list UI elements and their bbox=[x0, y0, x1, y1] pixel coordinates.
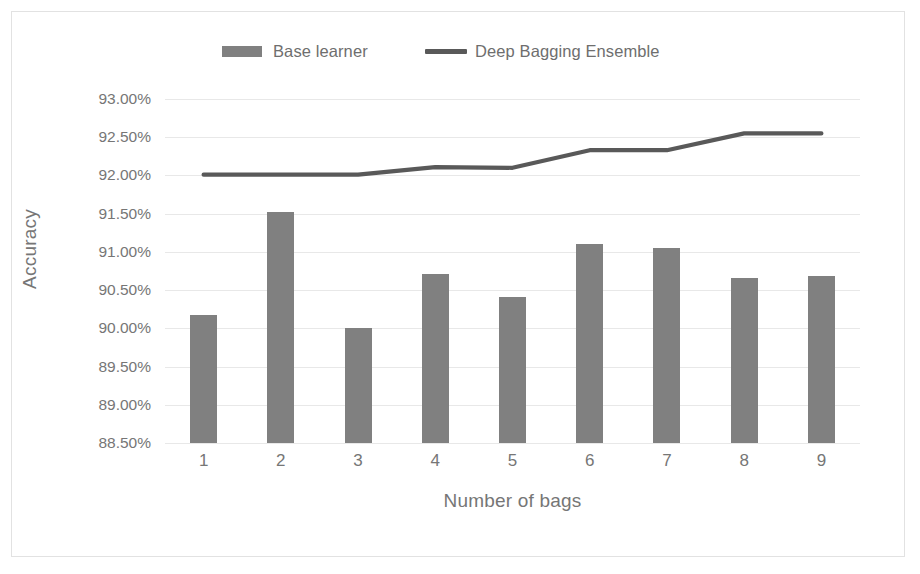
y-axis-tick-label: 92.00% bbox=[51, 166, 151, 184]
y-axis-tick-label: 88.50% bbox=[51, 434, 151, 452]
chart-figure: Base learner Deep Bagging Ensemble Accur… bbox=[0, 0, 920, 574]
y-axis-tick-label: 91.50% bbox=[51, 205, 151, 223]
legend-item-deep-bagging-ensemble: Deep Bagging Ensemble bbox=[425, 38, 660, 64]
y-axis-tick-label: 93.00% bbox=[51, 90, 151, 108]
y-axis-tick-label: 90.00% bbox=[51, 319, 151, 337]
x-axis-tick-label: 6 bbox=[560, 451, 620, 471]
legend-label-base-learner: Base learner bbox=[273, 42, 368, 61]
x-axis-tick-label: 5 bbox=[483, 451, 543, 471]
y-axis-tick-label: 89.00% bbox=[51, 396, 151, 414]
line-series-deep-bagging-ensemble bbox=[165, 99, 860, 443]
chart-legend: Base learner Deep Bagging Ensemble bbox=[0, 38, 920, 64]
plot-area: 123456789 bbox=[165, 99, 860, 443]
legend-label-deep-bagging-ensemble: Deep Bagging Ensemble bbox=[475, 42, 660, 61]
x-axis-tick-label: 7 bbox=[637, 451, 697, 471]
x-axis-title: Number of bags bbox=[165, 490, 860, 512]
ensemble-polyline bbox=[204, 133, 822, 174]
gridline bbox=[165, 443, 860, 444]
y-axis-title: Accuracy bbox=[19, 159, 41, 339]
legend-item-base-learner: Base learner bbox=[222, 38, 368, 64]
x-axis-tick-label: 3 bbox=[328, 451, 388, 471]
y-axis-tick-label: 92.50% bbox=[51, 128, 151, 146]
x-axis-tick-label: 4 bbox=[405, 451, 465, 471]
legend-swatch-bar-icon bbox=[222, 46, 262, 57]
x-axis-tick-label: 2 bbox=[251, 451, 311, 471]
y-axis-tick-label: 91.00% bbox=[51, 243, 151, 261]
legend-swatch-line-icon bbox=[425, 49, 467, 54]
x-axis-tick-label: 1 bbox=[174, 451, 234, 471]
y-axis-tick-label: 90.50% bbox=[51, 281, 151, 299]
y-axis-tick-label: 89.50% bbox=[51, 358, 151, 376]
x-axis-tick-label: 8 bbox=[714, 451, 774, 471]
x-axis-tick-label: 9 bbox=[791, 451, 851, 471]
